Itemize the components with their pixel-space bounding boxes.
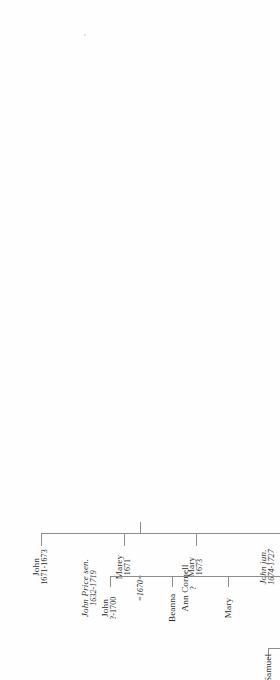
person-john-1700: John ?-1700 [100,597,119,620]
person-john-jun: John jun. 1674-1727 [258,549,277,585]
person-dates: 1673 [197,557,206,577]
person-john-1671-1673: John 1671-1673 [31,549,50,585]
bracket-gen1-stem [140,522,141,534]
person-samuel-plain: Samuel [263,654,273,680]
bracket-gen2-vertical [110,576,280,577]
bracket-gen4-vertical [268,648,280,649]
person-dates: ?-1700 [111,597,120,620]
genealogy-tree: John Price sen. 1632-1719 =1670= Ann Cor… [0,0,280,680]
child-tick-john-1700 [110,577,111,587]
marriage-1670: =1670= [136,575,145,602]
chart-page: John Price sen. 1632-1719 =1670= Ann Cor… [0,0,280,680]
person-mary-1673: Mary 1673 [186,557,205,577]
person-dates: 1671-1673 [42,549,51,585]
person-name: Mary [223,598,233,618]
child-tick-john-1671 [41,534,42,546]
person-name: Samuel [263,654,273,680]
child-tick-mary-1673 [196,534,197,546]
person-dates: 1632-1719 [91,559,100,617]
bracket-gen1-vertical [41,533,280,534]
child-tick-mary [228,577,229,587]
person-beanna: Beanna [167,594,177,622]
person-john-price-sen: John Price sen. 1632-1719 [80,559,99,617]
child-tick-marey [124,534,125,546]
child-tick-beanna [172,577,173,587]
person-mary: Mary [223,598,233,618]
person-dates: 1674-1727 [269,549,278,585]
person-name: Beanna [167,594,177,622]
